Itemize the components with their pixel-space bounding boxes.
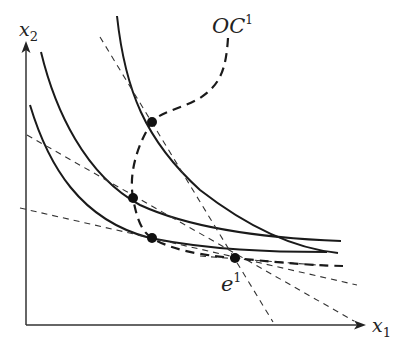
y-axis-label: x2 [19, 18, 38, 44]
offer-curve-label: OC1 [212, 13, 253, 38]
endowment-label-sup: 1 [233, 271, 241, 285]
budget-line-1 [100, 37, 273, 322]
axes [26, 50, 358, 325]
y-axis-label-sub: 2 [30, 29, 38, 44]
tangency-point-2 [128, 193, 138, 203]
x-axis-label-sub: 1 [383, 325, 391, 340]
points [128, 117, 240, 263]
budget-line-2 [27, 135, 354, 321]
offer-curve-diagram: x2 x1 OC1 e1 [0, 0, 409, 351]
x-axis-label: x1 [372, 314, 391, 340]
indifference-curve-2 [41, 52, 341, 241]
tangency-point-3 [147, 233, 157, 243]
indifference-curve-1 [117, 16, 338, 253]
endowment-label: e1 [221, 271, 241, 296]
tangency-point-1 [147, 117, 157, 127]
offer-curve-label-sup: 1 [245, 13, 253, 27]
endowment-point [230, 253, 240, 263]
indifference-curve-3 [30, 105, 327, 252]
indifference-curves [30, 16, 341, 253]
